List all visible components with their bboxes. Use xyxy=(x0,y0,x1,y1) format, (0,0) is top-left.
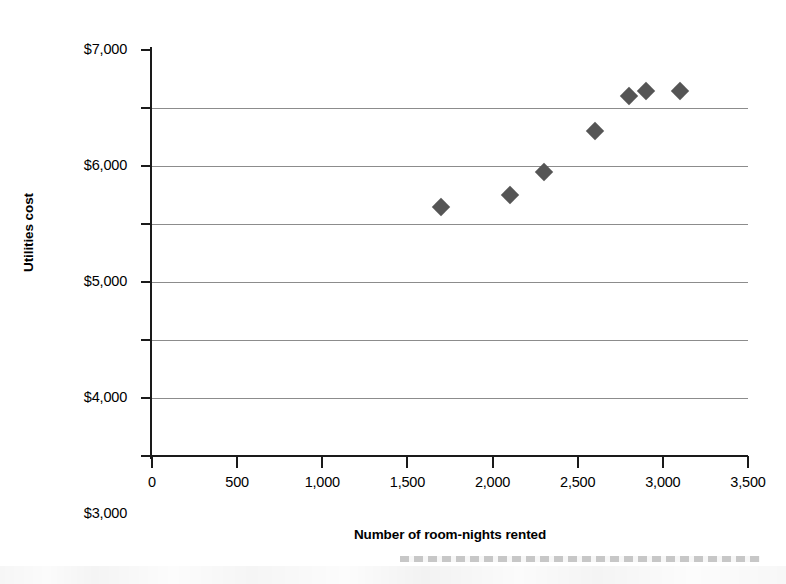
scan-artifact xyxy=(400,556,760,562)
x-axis-tick-label: 1,500 xyxy=(390,474,425,490)
gridline xyxy=(152,455,748,457)
gridline xyxy=(152,340,748,341)
plot-area: $0$1,000$2,000$3,000$4,000$5,000$6,000$7… xyxy=(152,50,748,456)
y-axis-tick-label: $6,000 xyxy=(84,157,127,173)
x-axis-tick xyxy=(492,456,494,468)
x-axis-tick xyxy=(577,456,579,468)
x-axis-tick xyxy=(236,456,238,468)
y-axis-tick-label: $5,000 xyxy=(84,273,127,289)
x-axis-tick-label: 3,000 xyxy=(645,474,680,490)
data-point-marker xyxy=(671,81,689,99)
x-axis-tick-label: 2,000 xyxy=(475,474,510,490)
y-axis-title: Utilities cost xyxy=(21,143,36,323)
y-axis-tick-label: $4,000 xyxy=(84,389,127,405)
x-axis-tick-label: 3,500 xyxy=(730,474,765,490)
y-axis-tick: $7,000 xyxy=(141,49,152,51)
x-axis-tick xyxy=(662,456,664,468)
y-axis-tick-label: $3,000 xyxy=(84,505,127,521)
x-axis-tick xyxy=(321,456,323,468)
scatter-chart: Utilities cost $0$1,000$2,000$3,000$4,00… xyxy=(0,0,786,584)
gridline xyxy=(152,166,748,167)
x-axis-tick-label: 0 xyxy=(148,474,156,490)
gridline xyxy=(152,108,748,109)
y-axis-tick-label: $7,000 xyxy=(84,41,127,57)
x-axis-title: Number of room-nights rented xyxy=(152,527,748,542)
y-axis-tick: $2,000 xyxy=(141,339,152,341)
data-point-marker xyxy=(432,197,450,215)
x-axis-tick xyxy=(747,456,749,468)
y-axis-tick: $4,000 xyxy=(141,223,152,225)
x-axis-tick xyxy=(151,456,153,468)
x-axis-tick-label: 1,000 xyxy=(305,474,340,490)
y-axis-tick: $5,000 xyxy=(141,165,152,167)
data-point-marker xyxy=(500,186,518,204)
gridline xyxy=(152,398,748,399)
y-axis-tick: $3,000 xyxy=(141,281,152,283)
y-axis-tick: $6,000 xyxy=(141,107,152,109)
data-point-marker xyxy=(620,87,638,105)
gridline xyxy=(152,282,748,283)
y-axis-tick: $1,000 xyxy=(141,397,152,399)
gridline xyxy=(152,224,748,225)
x-axis-tick-label: 2,500 xyxy=(560,474,595,490)
data-point-marker xyxy=(637,81,655,99)
x-axis-tick-label: 500 xyxy=(225,474,249,490)
data-point-marker xyxy=(586,122,604,140)
scan-artifact-band xyxy=(0,566,786,584)
x-axis-tick xyxy=(406,456,408,468)
